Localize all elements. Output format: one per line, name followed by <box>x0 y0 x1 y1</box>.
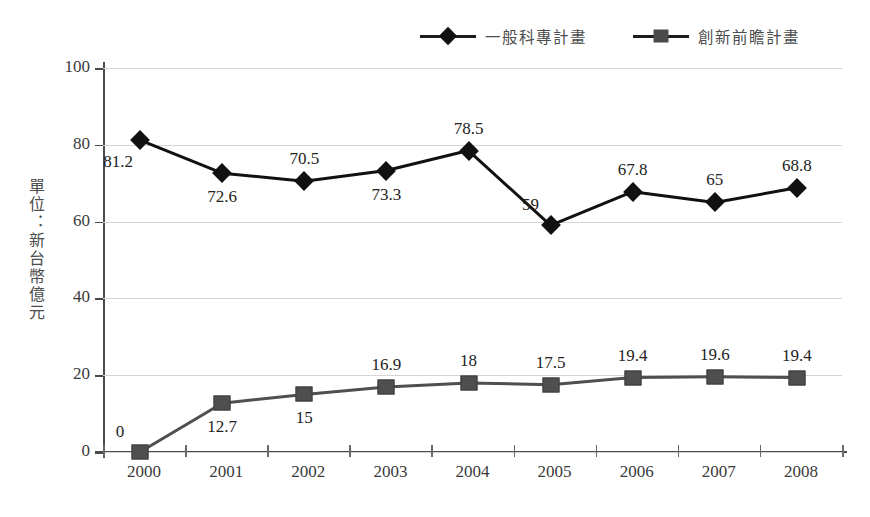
chart-root: 一般科專計畫 創新前瞻計畫 單位：新台幣億元 020406080100 2000… <box>0 0 870 517</box>
data-point-label: 81.2 <box>103 152 133 172</box>
data-point-label: 17.5 <box>536 353 566 373</box>
data-point-label: 15 <box>296 408 313 428</box>
data-point-marker <box>542 377 559 392</box>
data-point-marker <box>132 445 149 460</box>
data-point-marker <box>624 370 641 385</box>
data-point-marker <box>788 370 805 385</box>
data-point-label: 12.7 <box>207 417 237 437</box>
data-point-marker <box>378 380 395 395</box>
data-point-label: 78.5 <box>454 119 484 139</box>
data-point-label: 68.8 <box>782 156 812 176</box>
data-point-marker <box>706 369 723 384</box>
data-point-marker <box>460 375 477 390</box>
data-point-marker <box>296 387 313 402</box>
data-point-label: 19.4 <box>618 346 648 366</box>
series-line-layer <box>0 0 870 517</box>
data-point-label: 59 <box>522 195 539 215</box>
data-point-label: 0 <box>116 422 125 442</box>
data-point-label: 73.3 <box>372 185 402 205</box>
data-point-label: 19.6 <box>700 345 730 365</box>
data-point-marker <box>214 396 231 411</box>
data-point-label: 67.8 <box>618 160 648 180</box>
data-point-label: 18 <box>460 351 477 371</box>
data-point-label: 70.5 <box>289 149 319 169</box>
data-point-label: 65 <box>706 170 723 190</box>
data-point-label: 16.9 <box>372 355 402 375</box>
data-point-label: 19.4 <box>782 346 812 366</box>
data-point-label: 72.6 <box>207 187 237 207</box>
